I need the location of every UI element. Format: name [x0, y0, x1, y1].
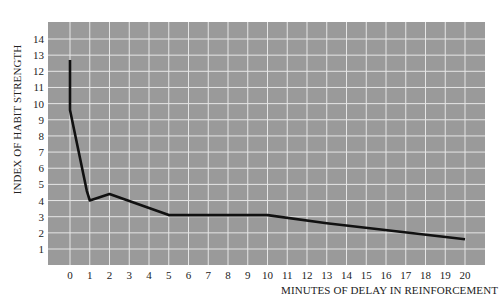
y-tick-label: 12: [33, 65, 44, 77]
y-tick-label: 10: [33, 98, 45, 110]
x-tick-label: 3: [127, 269, 133, 281]
y-tick-label: 3: [39, 211, 45, 223]
x-tick-label: 10: [262, 269, 274, 281]
y-tick-label: 1: [39, 243, 45, 255]
x-tick-label: 6: [186, 269, 192, 281]
x-tick-label: 15: [361, 269, 373, 281]
y-tick-label: 9: [39, 114, 45, 126]
plot-area: [48, 22, 485, 265]
x-tick-label: 14: [341, 269, 353, 281]
y-axis-label: INDEX OF HABIT STRENGTH: [11, 45, 23, 195]
x-tick-label: 12: [302, 269, 313, 281]
y-tick-label: 6: [39, 162, 45, 174]
x-tick-label: 11: [282, 269, 293, 281]
y-tick-label: 4: [39, 195, 45, 207]
y-tick-label: 13: [33, 49, 45, 61]
y-tick-label: 14: [33, 33, 45, 45]
x-tick-label: 16: [381, 269, 393, 281]
x-tick-label: 19: [440, 269, 452, 281]
x-tick-label: 7: [206, 269, 212, 281]
x-axis-label: MINUTES OF DELAY IN REINFORCEMENT: [281, 284, 498, 296]
habit-strength-chart: 1234567891011121314 01234567891011121314…: [0, 0, 501, 305]
x-tick-label: 1: [87, 269, 93, 281]
y-tick-label: 5: [39, 178, 45, 190]
x-tick-label: 9: [245, 269, 251, 281]
x-tick-label: 5: [166, 269, 172, 281]
y-tick-label: 11: [33, 81, 44, 93]
x-tick-label: 17: [400, 269, 412, 281]
x-tick-label: 13: [321, 269, 333, 281]
x-tick-label: 18: [420, 269, 432, 281]
y-axis-ticks: 1234567891011121314: [33, 33, 45, 255]
x-tick-label: 20: [460, 269, 472, 281]
y-tick-label: 7: [39, 146, 45, 158]
y-tick-label: 2: [39, 227, 45, 239]
x-tick-label: 0: [67, 269, 73, 281]
x-tick-label: 8: [225, 269, 231, 281]
y-tick-label: 8: [39, 130, 45, 142]
x-tick-label: 2: [107, 269, 113, 281]
x-axis-ticks: 01234567891011121314151617181920: [67, 269, 471, 281]
x-tick-label: 4: [146, 269, 152, 281]
